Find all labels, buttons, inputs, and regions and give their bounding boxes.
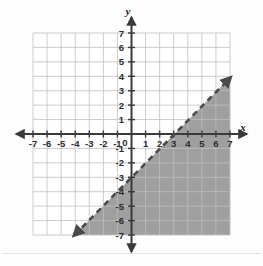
x-tick-label--4: -4 [71, 138, 80, 149]
y-tick-label--6: -6 [116, 215, 124, 226]
x-tick-label-1: 1 [143, 138, 149, 149]
x-tick-label-4: 4 [185, 138, 191, 149]
coordinate-plane-svg: -7 -6 -5 -4 -3 -2 -1 1 2 3 4 5 6 7 7 6 5… [0, 0, 263, 266]
y-tick-label-6: 6 [119, 42, 124, 53]
y-tick-label--7: -7 [116, 230, 124, 241]
x-tick-label--6: -6 [43, 138, 51, 149]
y-tick-label-4: 4 [119, 71, 125, 82]
y-tick-label--2: -2 [116, 157, 124, 168]
x-tick-label-5: 5 [199, 138, 205, 149]
y-tick-label-5: 5 [119, 56, 125, 67]
y-tick-label--5: -5 [116, 201, 125, 212]
x-tick-label--3: -3 [85, 138, 93, 149]
y-tick-label-1: 1 [119, 114, 125, 125]
coordinate-plane-figure: -7 -6 -5 -4 -3 -2 -1 1 2 3 4 5 6 7 7 6 5… [0, 0, 263, 266]
bottom-divider [2, 253, 261, 254]
origin-label: 0 [122, 137, 127, 148]
x-axis-label: x [239, 121, 246, 133]
x-tick-label-2: 2 [157, 138, 162, 149]
x-tick-label-6: 6 [213, 138, 218, 149]
x-tick-label-7: 7 [227, 138, 232, 149]
y-tick-label-2: 2 [119, 100, 124, 111]
x-tick-label-3: 3 [171, 138, 176, 149]
x-tick-label--5: -5 [57, 138, 66, 149]
y-tick-label--4: -4 [116, 186, 125, 197]
y-tick-label-3: 3 [119, 85, 124, 96]
y-axis-label: y [124, 5, 131, 17]
y-tick-label--3: -3 [116, 172, 124, 183]
x-tick-label--2: -2 [99, 138, 107, 149]
x-tick-label--7: -7 [29, 138, 37, 149]
y-tick-label-7: 7 [119, 28, 124, 39]
